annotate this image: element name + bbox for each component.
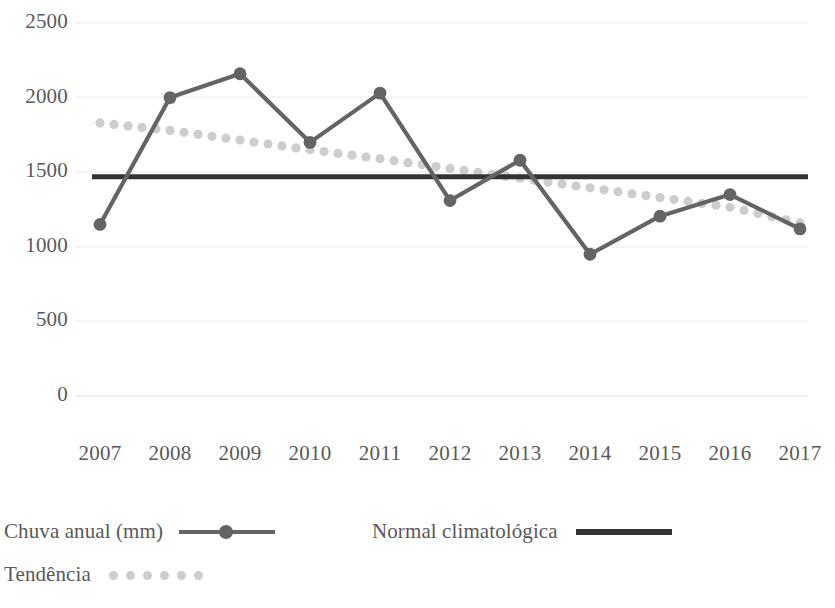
y-tick-label: 2000: [6, 84, 68, 109]
legend-trend-dot: [143, 571, 152, 580]
y-tick-label: 2500: [6, 9, 68, 34]
legend-item-tendencia[interactable]: Tendência: [4, 562, 205, 587]
x-tick-label: 2016: [695, 441, 765, 466]
x-tick-label: 2010: [275, 441, 345, 466]
trend-dot: [599, 185, 608, 194]
data-point-marker[interactable]: [374, 87, 387, 100]
trend-dot: [739, 206, 748, 215]
trend-dot: [403, 158, 412, 167]
legend-trend-dot: [126, 571, 135, 580]
x-tick-label: 2015: [625, 441, 695, 466]
trend-dot: [431, 162, 440, 171]
trend-dot: [613, 187, 622, 196]
x-tick-label: 2017: [765, 441, 835, 466]
trend-dot: [221, 134, 230, 143]
trend-dot: [109, 120, 118, 129]
y-tick-label: 1500: [6, 158, 68, 183]
legend-label-normal-climatologica: Normal climatológica: [372, 519, 558, 544]
trend-dot: [585, 183, 594, 192]
legend-trend-dot: [160, 571, 169, 580]
legend-label-tendencia: Tendência: [4, 562, 91, 587]
legend-trend-dot: [109, 571, 118, 580]
y-tick-label: 500: [6, 307, 68, 332]
trend-dot: [711, 201, 720, 210]
trend-dot: [319, 147, 328, 156]
y-tick-label: 1000: [6, 233, 68, 258]
x-tick-label: 2007: [65, 441, 135, 466]
trend-dot: [249, 137, 258, 146]
trend-dot: [137, 123, 146, 132]
legend-label-chuva-anual: Chuva anual (mm): [4, 519, 163, 544]
trend-dot: [123, 121, 132, 130]
x-tick-label: 2014: [555, 441, 625, 466]
trend-dot: [291, 143, 300, 152]
trend-dot: [459, 166, 468, 175]
data-point-marker[interactable]: [794, 222, 807, 235]
trend-dot: [235, 136, 244, 145]
trend-dot: [445, 164, 454, 173]
data-point-marker[interactable]: [514, 154, 527, 167]
trend-series: [95, 118, 804, 227]
data-point-marker[interactable]: [584, 248, 597, 261]
x-tick-label: 2012: [415, 441, 485, 466]
data-point-marker[interactable]: [444, 194, 457, 207]
trend-dot: [361, 152, 370, 161]
trend-dot: [655, 193, 664, 202]
trend-dot: [641, 191, 650, 200]
x-tick-label: 2009: [205, 441, 275, 466]
data-point-marker[interactable]: [234, 67, 247, 80]
x-tick-label: 2013: [485, 441, 555, 466]
x-tick-label: 2011: [345, 441, 415, 466]
trend-dot: [207, 132, 216, 141]
trend-dot: [347, 151, 356, 160]
gridlines: [76, 23, 808, 396]
legend-item-chuva-anual[interactable]: Chuva anual (mm): [4, 519, 275, 544]
trend-dot: [263, 139, 272, 148]
legend-trend-dot: [177, 571, 186, 580]
legend-marker-line-with-dot-icon: [179, 523, 275, 541]
trend-dot: [725, 203, 734, 212]
data-point-marker[interactable]: [654, 210, 667, 223]
trend-dot: [375, 154, 384, 163]
trend-dot: [277, 141, 286, 150]
trend-dot: [193, 130, 202, 139]
trend-dot: [389, 156, 398, 165]
trend-dot: [95, 118, 104, 127]
trend-dot: [179, 128, 188, 137]
trend-dot: [669, 195, 678, 204]
data-point-marker[interactable]: [94, 218, 107, 231]
data-point-marker[interactable]: [164, 91, 177, 104]
trend-dot: [571, 181, 580, 190]
chart-legend: Chuva anual (mm) Normal climatológica Te…: [0, 505, 835, 605]
trend-dot: [627, 189, 636, 198]
rainfall-chart: 25002000150010005000 2007200820092010201…: [0, 0, 835, 608]
legend-marker-dotted-line-icon: [109, 566, 205, 584]
data-point-marker[interactable]: [304, 136, 317, 149]
trend-dot: [333, 149, 342, 158]
x-tick-label: 2008: [135, 441, 205, 466]
data-point-marker[interactable]: [724, 188, 737, 201]
legend-trend-dot: [194, 571, 203, 580]
y-tick-label: 0: [6, 382, 68, 407]
trend-dot: [165, 126, 174, 135]
legend-item-normal-climatologica[interactable]: Normal climatológica: [372, 519, 672, 544]
trend-dot: [557, 179, 566, 188]
legend-marker-solid-line-icon: [576, 523, 672, 541]
